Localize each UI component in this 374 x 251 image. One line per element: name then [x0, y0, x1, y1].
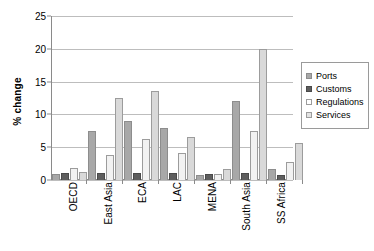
- bar-group: [231, 16, 267, 180]
- bar: [241, 173, 249, 180]
- bar: [79, 172, 87, 180]
- y-tick-label: 0: [40, 175, 46, 186]
- x-axis-tick-label: OECD: [68, 182, 79, 211]
- bar: [259, 49, 267, 180]
- legend: PortsCustomsRegulationsServices: [301, 62, 369, 129]
- bar-group: [195, 16, 231, 180]
- y-axis-title: % change: [12, 57, 23, 147]
- legend-item[interactable]: Ports: [306, 71, 364, 81]
- x-tick-mark: [302, 180, 303, 184]
- bar-group: [87, 16, 123, 180]
- bar: [115, 98, 123, 180]
- x-label-cell: SS Africa: [258, 182, 293, 250]
- x-axis-labels: OECDEast AsiaECALACMENASouth AsiaSS Afri…: [51, 182, 293, 250]
- legend-item[interactable]: Services: [306, 110, 364, 120]
- bar: [151, 91, 159, 180]
- bar: [196, 175, 204, 180]
- bar: [124, 121, 132, 180]
- x-label-cell: MENA: [189, 182, 224, 250]
- y-tick-label: 15: [35, 76, 46, 87]
- bar: [70, 168, 78, 180]
- y-tick-label: 5: [40, 142, 46, 153]
- bar: [205, 174, 213, 180]
- bar-group: [267, 16, 303, 180]
- x-label-cell: LAC: [155, 182, 190, 250]
- x-axis-tick-label: East Asia: [103, 182, 114, 225]
- bar: [178, 153, 186, 180]
- legend-label: Regulations: [316, 97, 364, 107]
- bar-group: [51, 16, 87, 180]
- y-tick-label: 25: [35, 11, 46, 22]
- x-axis-tick-label: MENA: [207, 182, 218, 211]
- bar: [88, 131, 96, 180]
- legend-label: Services: [316, 110, 351, 120]
- legend-label: Customs: [316, 84, 352, 94]
- bar: [133, 173, 141, 180]
- bar: [250, 131, 258, 180]
- gridline: [51, 180, 293, 181]
- plot-inner: 0510152025: [51, 16, 293, 180]
- bar: [106, 155, 114, 180]
- y-tick-label: 20: [35, 43, 46, 54]
- bar: [286, 162, 294, 180]
- bar: [61, 173, 69, 180]
- bar: [268, 169, 276, 180]
- legend-swatch-icon: [306, 73, 312, 79]
- x-label-cell: South Asia: [224, 182, 259, 250]
- bar: [160, 128, 168, 180]
- bar: [277, 175, 285, 180]
- bar-group: [159, 16, 195, 180]
- x-axis-tick-label: SS Africa: [276, 182, 287, 224]
- legend-swatch-icon: [306, 86, 312, 92]
- bar-group: [123, 16, 159, 180]
- bar-groups: [51, 16, 293, 180]
- legend-item[interactable]: Customs: [306, 84, 364, 94]
- legend-label: Ports: [316, 71, 337, 81]
- legend-swatch-icon: [306, 112, 312, 118]
- legend-item[interactable]: Regulations: [306, 97, 364, 107]
- bar: [295, 143, 303, 180]
- bar: [223, 169, 231, 180]
- x-label-cell: OECD: [51, 182, 86, 250]
- bar-chart: % change 0510152025 OECDEast AsiaECALACM…: [0, 0, 374, 251]
- y-tick-label: 10: [35, 109, 46, 120]
- x-axis-tick-label: LAC: [172, 182, 183, 202]
- bar: [232, 101, 240, 180]
- bar: [142, 139, 150, 180]
- bar: [97, 173, 105, 180]
- bar: [52, 174, 60, 180]
- x-label-cell: East Asia: [86, 182, 121, 250]
- bar: [214, 174, 222, 180]
- legend-swatch-icon: [306, 99, 312, 105]
- bar: [187, 137, 195, 180]
- plot-area: 0510152025: [51, 16, 293, 180]
- bar: [169, 173, 177, 180]
- x-axis-tick-label: South Asia: [241, 182, 252, 231]
- x-axis-tick-label: ECA: [137, 182, 148, 203]
- x-label-cell: ECA: [120, 182, 155, 250]
